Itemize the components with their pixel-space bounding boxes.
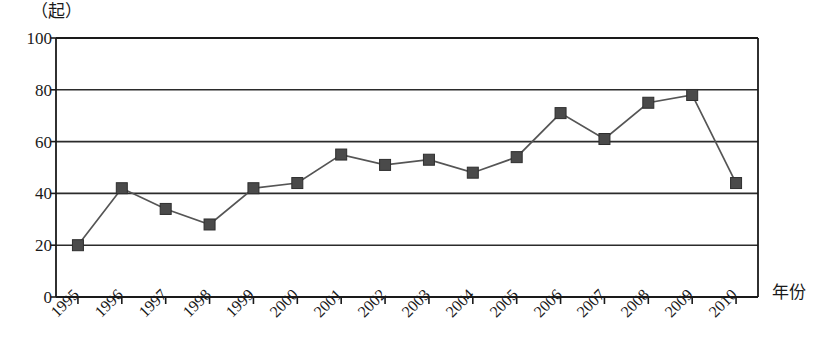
x-axis-tick-label: 2000 (267, 286, 301, 320)
x-axis-tick-labels: 1995199619971998199920002001200220032004… (0, 0, 815, 349)
x-axis-tick-label: 1998 (180, 286, 214, 320)
x-axis-tick-label: 1996 (92, 286, 126, 320)
x-axis-tick-label: 2009 (662, 286, 696, 320)
x-axis-tick-label: 2002 (355, 286, 389, 320)
line-chart: （起） 020406080100 19951996199719981999200… (0, 0, 815, 349)
x-axis-tick-label: 1999 (223, 286, 257, 320)
x-axis-tick-label: 1997 (136, 286, 170, 320)
x-axis-title: 年份 (772, 282, 806, 302)
x-axis-tick-label: 2005 (487, 286, 521, 320)
x-axis-tick-label: 2006 (531, 286, 565, 320)
x-axis-tick-label: 2003 (399, 286, 433, 320)
x-axis-tick-label: 2008 (618, 286, 652, 320)
x-axis-tick-label: 2001 (311, 286, 345, 320)
x-axis-tick-label: 2010 (706, 286, 740, 320)
x-axis-tick-label: 2004 (443, 286, 477, 320)
x-axis-tick-label: 2007 (574, 286, 608, 320)
x-axis-tick-label: 1995 (48, 286, 82, 320)
